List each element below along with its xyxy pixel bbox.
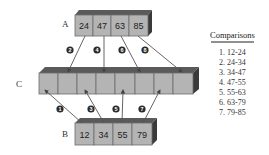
step-number: 3 [89, 106, 92, 112]
array-c-cell [39, 73, 58, 94]
step-number: 1 [58, 106, 61, 112]
array-c-cell [77, 73, 96, 94]
array-a-cell: 85 [133, 21, 143, 31]
array-c-cell [58, 73, 77, 94]
arrows-a-to-c [68, 36, 182, 72]
comparison-item: 1. 12-24 [219, 48, 246, 57]
step-number: 7 [140, 106, 143, 112]
array-a-cell: 24 [79, 21, 89, 31]
array-a-cell: 47 [97, 21, 107, 31]
array-c-cell [173, 73, 193, 94]
comparison-item: 2. 24-34 [219, 58, 246, 67]
array-b-cell: 34 [98, 130, 108, 140]
arrow-icon [45, 90, 82, 123]
array-b-cell: 79 [137, 130, 147, 140]
array-c-label: C [16, 79, 22, 89]
step-number: 8 [143, 47, 146, 53]
array-a-label: A [62, 19, 69, 29]
array-b-cell: 55 [117, 130, 127, 140]
arrow-icon [138, 36, 182, 72]
array-b-cells: 12 34 55 79 [75, 123, 152, 145]
arrow-icon [68, 36, 85, 72]
array-c-cell [135, 73, 154, 94]
comparison-item: 3. 34-47 [219, 68, 246, 77]
comparison-item: 4. 47-55 [219, 78, 246, 87]
comparison-item: 6. 63-79 [219, 98, 246, 107]
array-c-cell [115, 73, 135, 94]
array-c-cells [39, 73, 193, 94]
comparison-item: 5. 55-63 [219, 88, 246, 97]
array-c: C [16, 67, 199, 94]
comparison-item: 7. 79-85 [219, 108, 246, 117]
array-b: B 12 34 55 79 [62, 118, 157, 145]
array-b-label: B [62, 129, 68, 139]
comparisons-title: Comparisons [210, 30, 255, 40]
arrow-icon [121, 36, 140, 72]
array-a: A 24 47 63 85 [62, 10, 152, 36]
comparisons-panel: Comparisons 1. 12-24 2. 24-34 3. 34-47 4… [210, 30, 255, 117]
step-number: 6 [120, 47, 123, 53]
merge-diagram: A 24 47 63 85 C [0, 0, 269, 155]
step-number: 2 [68, 47, 71, 53]
array-b-cell: 12 [79, 130, 89, 140]
array-c-cell [96, 73, 115, 94]
array-a-cells: 24 47 63 85 [75, 15, 148, 36]
step-number: 5 [114, 106, 117, 112]
array-c-cell [154, 73, 173, 94]
array-a-cell: 63 [115, 21, 125, 31]
